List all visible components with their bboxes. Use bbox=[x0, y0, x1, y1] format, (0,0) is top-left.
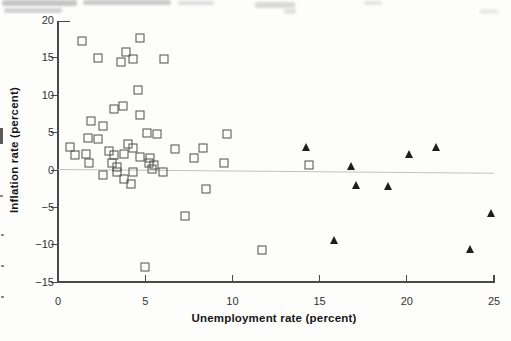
data-point-triangle bbox=[405, 150, 413, 158]
data-point-square bbox=[128, 55, 137, 64]
data-point-triangle bbox=[466, 245, 474, 253]
x-axis-line bbox=[57, 281, 495, 282]
data-point-square bbox=[219, 159, 228, 168]
x-tick-mark bbox=[493, 275, 494, 282]
x-tick-label: 25 bbox=[479, 295, 509, 308]
data-point-triangle bbox=[347, 162, 355, 170]
scan-artifact-left-margin bbox=[1, 296, 4, 298]
data-point-square bbox=[190, 154, 199, 163]
x-tick-label: 0 bbox=[43, 295, 73, 308]
y-tick-label: 15 bbox=[8, 51, 54, 64]
data-point-square bbox=[116, 57, 125, 66]
x-tick-mark bbox=[406, 275, 407, 282]
data-point-square bbox=[160, 54, 169, 63]
data-point-triangle bbox=[432, 143, 440, 151]
scan-artifact-smudge bbox=[178, 1, 214, 5]
data-point-triangle bbox=[302, 143, 310, 151]
x-tick-label: 20 bbox=[392, 295, 422, 308]
data-point-square bbox=[148, 165, 157, 174]
data-point-triangle bbox=[330, 236, 338, 244]
data-point-square bbox=[85, 158, 94, 167]
scan-artifact-left-margin bbox=[1, 234, 4, 236]
x-tick-label: 10 bbox=[217, 295, 247, 308]
data-point-square bbox=[87, 116, 96, 125]
data-point-square bbox=[99, 121, 108, 130]
y-tick-label: 5 bbox=[8, 126, 54, 139]
x-tick-label: 5 bbox=[130, 295, 160, 308]
scan-artifact-smudge bbox=[83, 0, 171, 5]
data-point-square bbox=[128, 168, 137, 177]
y-tick-label: −5 bbox=[8, 201, 54, 214]
data-point-square bbox=[127, 180, 136, 189]
data-point-square bbox=[94, 134, 103, 143]
data-point-square bbox=[134, 86, 143, 95]
scan-artifact-smudge bbox=[364, 1, 382, 5]
scan-artifact-smudge bbox=[2, 0, 77, 6]
data-point-square bbox=[305, 160, 314, 169]
scan-artifact-smudge bbox=[284, 8, 296, 14]
data-point-square bbox=[128, 143, 137, 152]
data-point-square bbox=[158, 168, 167, 177]
y-tick-label: 20 bbox=[8, 14, 54, 27]
scan-artifact-left-margin bbox=[1, 265, 4, 267]
x-tick-label: 15 bbox=[305, 295, 335, 308]
y-tick-label: 0 bbox=[8, 164, 54, 177]
data-point-square bbox=[135, 34, 144, 43]
data-point-square bbox=[78, 36, 87, 45]
y-axis-top-tick bbox=[58, 21, 70, 22]
data-point-square bbox=[135, 152, 144, 161]
scan-artifact-left-margin bbox=[0, 128, 3, 144]
data-point-square bbox=[258, 246, 267, 255]
data-point-square bbox=[135, 111, 144, 120]
y-tick-label: −10 bbox=[8, 238, 54, 251]
data-point-square bbox=[118, 101, 127, 110]
data-point-triangle bbox=[352, 181, 360, 189]
x-tick-mark bbox=[319, 275, 320, 282]
scan-artifact-smudge bbox=[480, 9, 498, 14]
data-point-square bbox=[181, 211, 190, 220]
y-axis-title: Inflation rate (percent) bbox=[8, 87, 20, 213]
data-point-square bbox=[120, 149, 129, 158]
data-point-square bbox=[223, 130, 232, 139]
x-tick-mark bbox=[145, 275, 146, 282]
data-point-square bbox=[198, 144, 207, 153]
data-point-square bbox=[83, 133, 92, 142]
data-point-square bbox=[153, 130, 162, 139]
data-point-square bbox=[170, 145, 179, 154]
y-axis-line bbox=[57, 21, 58, 283]
data-point-triangle bbox=[487, 209, 495, 217]
data-point-square bbox=[71, 151, 80, 160]
y-tick-label: 10 bbox=[8, 89, 54, 102]
data-point-square bbox=[99, 171, 108, 180]
data-point-square bbox=[81, 149, 90, 158]
scan-artifact-left-margin bbox=[0, 195, 3, 197]
scanned-scatter-figure: Inflation rate (percent) Unemployment ra… bbox=[0, 0, 511, 341]
data-point-square bbox=[202, 184, 211, 193]
data-point-square bbox=[142, 128, 151, 137]
x-tick-mark bbox=[232, 275, 233, 282]
data-point-square bbox=[141, 263, 150, 272]
data-point-square bbox=[109, 104, 118, 113]
y-tick-label: −15 bbox=[8, 276, 54, 289]
x-axis-title: Unemployment rate (percent) bbox=[191, 312, 356, 324]
scan-artifact-smudge bbox=[4, 8, 62, 13]
data-point-square bbox=[94, 53, 103, 62]
data-point-triangle bbox=[384, 182, 392, 190]
